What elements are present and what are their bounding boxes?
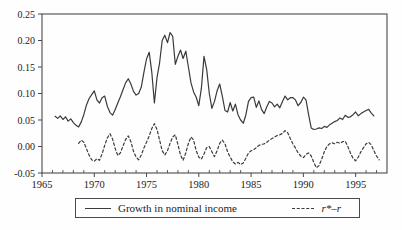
x-tick-label: 1970	[84, 179, 105, 190]
legend-label-rstar: r*–r	[321, 202, 341, 214]
legend-label-growth: Growth in nominal income	[118, 202, 237, 214]
y-tick-label: 0.15	[18, 62, 36, 73]
legend: Growth in nominal income r*–r	[75, 198, 360, 218]
series-line-growth	[55, 33, 374, 130]
x-tick-label: 1985	[241, 179, 262, 190]
x-tick-label: 1965	[32, 179, 53, 190]
x-tick-label: 1990	[293, 179, 314, 190]
dashed-line-sample	[292, 208, 314, 209]
x-tick-label: 1980	[188, 179, 209, 190]
chart-figure: -0.050.000.050.100.150.200.2519651970197…	[0, 0, 402, 230]
y-tick-label: 0.20	[18, 35, 36, 46]
legend-item-growth: Growth in nominal income	[85, 202, 237, 214]
y-tick-label: 0.05	[18, 115, 36, 126]
legend-item-rstar: r*–r	[292, 202, 341, 214]
plot-frame	[42, 14, 387, 173]
line-chart: -0.050.000.050.100.150.200.2519651970197…	[0, 0, 402, 230]
x-tick-label: 1995	[345, 179, 366, 190]
y-tick-label: 0.10	[18, 88, 36, 99]
y-tick-label: 0.25	[18, 9, 36, 20]
series-line-rstar	[79, 124, 380, 168]
solid-line-sample	[85, 208, 111, 209]
x-tick-label: 1975	[136, 179, 157, 190]
y-tick-label: 0.00	[18, 141, 36, 152]
y-tick-label: -0.05	[14, 168, 35, 179]
